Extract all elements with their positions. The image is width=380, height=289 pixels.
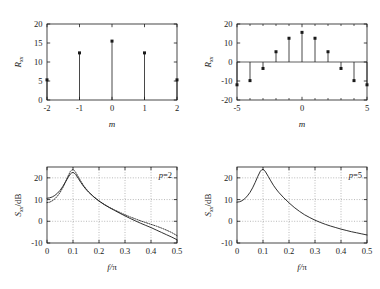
x-tick-label: 0 — [235, 246, 239, 256]
y-tick-label: 15 — [34, 38, 43, 48]
y-tick-label: -10 — [221, 238, 232, 248]
plot-annotation: p=5 — [348, 170, 362, 180]
stem-marker — [288, 37, 291, 40]
y-tick-label: 10 — [34, 195, 43, 205]
x-tick-label: 0 — [110, 103, 114, 113]
x-tick-label: 5 — [365, 103, 369, 113]
x-axis-label: f/π — [297, 262, 307, 272]
y-tick-label: 0 — [228, 216, 232, 226]
gridlines — [47, 167, 177, 243]
stem-marker — [249, 79, 252, 82]
x-tick-label: 0.4 — [146, 246, 157, 256]
stem-series — [236, 31, 369, 86]
x-tick-label: 0.1 — [258, 246, 269, 256]
stem-series — [46, 40, 179, 100]
y-tick-label: 0 — [38, 95, 42, 105]
curve-estimate — [237, 169, 367, 235]
plot-annotation: p=2 — [158, 170, 172, 180]
plot-bottom-right: 00.10.20.30.40.5-1001020f/πSxx/dBp=5 — [190, 145, 380, 289]
y-tick-label: -10 — [221, 76, 232, 86]
curve-estimate — [47, 172, 177, 239]
x-tick-label: -2 — [43, 103, 50, 113]
y-tick-label: 10 — [34, 57, 43, 67]
stem-marker — [275, 50, 278, 53]
y-axis-label: Sxx/dB — [203, 194, 214, 217]
stem-marker — [366, 83, 369, 86]
y-tick-label: -10 — [31, 238, 42, 248]
y-tick-label: 20 — [224, 173, 233, 183]
stem-marker — [340, 67, 343, 70]
stem-marker — [176, 78, 179, 81]
x-tick-label: -1 — [76, 103, 83, 113]
plot-bottom-left: 00.10.20.30.40.5-1001020f/πSxx/dBp=2 — [0, 145, 190, 289]
stem-marker — [46, 78, 49, 81]
stem-marker — [78, 51, 81, 54]
tick-labels: -2-101205101520 — [34, 19, 179, 113]
tick-marks — [47, 167, 177, 243]
plot-top-left: -2-101205101520mRxx — [0, 2, 190, 146]
y-tick-label: 10 — [224, 195, 233, 205]
axes-frame — [47, 167, 177, 243]
x-axis-label: f/π — [107, 262, 117, 272]
x-tick-label: 1 — [142, 103, 146, 113]
stem-marker — [314, 37, 317, 40]
x-axis-label: m — [299, 119, 306, 129]
y-axis-label: Sxx/dB — [13, 194, 24, 217]
y-axis-label: Rxx — [13, 56, 24, 68]
y-tick-label: 0 — [38, 216, 42, 226]
stem-marker — [143, 51, 146, 54]
x-tick-label: 0.2 — [284, 246, 295, 256]
x-tick-label: 0.2 — [94, 246, 105, 256]
x-tick-label: 0.4 — [336, 246, 347, 256]
y-tick-label: 0 — [228, 57, 232, 67]
y-axis-label: Rxx — [203, 56, 214, 68]
y-tick-label: -20 — [221, 95, 232, 105]
x-tick-label: 0.3 — [120, 246, 131, 256]
plot-top-right: -505-20-1001020mRxx — [190, 2, 380, 146]
figure-panel-grid: -2-101205101520mRxx-505-20-1001020mRxx00… — [0, 0, 380, 289]
stem-marker — [262, 67, 265, 70]
stem-marker — [327, 50, 330, 53]
x-tick-label: 0.5 — [362, 246, 373, 256]
x-tick-label: 0.5 — [172, 246, 183, 256]
y-tick-label: 20 — [224, 19, 233, 29]
y-tick-label: 20 — [34, 19, 43, 29]
stem-marker — [353, 79, 356, 82]
tick-labels: -505-20-1001020 — [221, 19, 369, 113]
x-tick-label: 0.3 — [310, 246, 321, 256]
stem-marker — [236, 83, 239, 86]
y-tick-label: 5 — [38, 76, 42, 86]
y-tick-label: 10 — [224, 38, 233, 48]
x-tick-label: -5 — [233, 103, 240, 113]
y-tick-label: 20 — [34, 173, 43, 183]
x-tick-label: 2 — [175, 103, 179, 113]
x-axis-label: m — [109, 119, 116, 129]
x-tick-label: 0 — [300, 103, 304, 113]
stem-marker — [111, 40, 114, 43]
x-tick-label: 0 — [45, 246, 49, 256]
x-tick-label: 0.1 — [68, 246, 79, 256]
stem-marker — [301, 31, 304, 34]
